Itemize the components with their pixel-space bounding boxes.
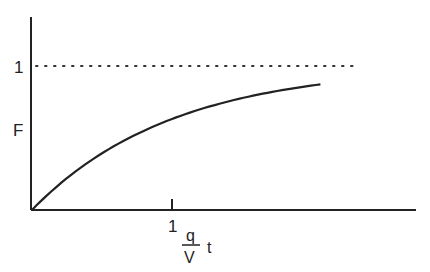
x-label-suffix: t — [207, 239, 212, 256]
chart: 1 1 F q V t — [0, 0, 430, 272]
y-axis-label: F — [13, 121, 23, 140]
x-tick-label-1: 1 — [168, 217, 177, 236]
x-label-denominator: V — [184, 249, 195, 266]
x-label-numerator: q — [186, 227, 195, 244]
saturation-curve — [32, 84, 320, 210]
y-tick-label-1: 1 — [14, 58, 23, 77]
